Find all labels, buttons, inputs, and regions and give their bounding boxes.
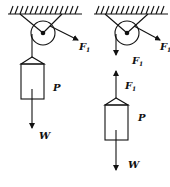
right-figure: F1 F1 F1 P W [94,6,170,170]
label-f1-up: F1 [124,80,136,92]
label-f1-right: F1 [159,41,170,53]
pulley-diagram: F1 P W [0,0,170,187]
label-w: W [128,159,141,170]
label-f1: F1 [78,41,90,53]
label-p: P [137,112,146,123]
left-figure: F1 P W [8,6,90,141]
label-f1-down: F1 [131,55,143,67]
ceiling-hatch [94,6,168,14]
ceiling-hatch [8,6,82,14]
pulley [20,14,62,45]
label-p: P [52,82,61,93]
label-w: W [39,130,52,141]
